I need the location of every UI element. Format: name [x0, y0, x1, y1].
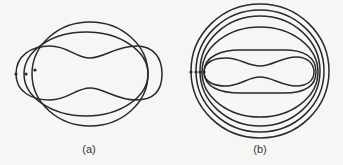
inner-ellipse-b — [202, 27, 318, 117]
wide-ellipse-a — [24, 32, 148, 116]
point-marker-a2 — [24, 72, 27, 75]
point-marker-a1 — [14, 72, 17, 75]
tall-ellipse-a — [32, 22, 148, 126]
point-marker-b2 — [194, 70, 197, 73]
caption-b: (b) — [245, 143, 275, 155]
outer-circle-b1 — [191, 4, 329, 138]
panel-a — [14, 22, 162, 126]
panel-b — [189, 4, 329, 138]
diagram-canvas — [0, 0, 343, 165]
peanut-curve-b — [204, 57, 314, 86]
outer-circle-b2 — [196, 10, 324, 132]
outer-circle-b3 — [200, 16, 320, 126]
caption-a: (a) — [74, 143, 104, 155]
figure-page: (a) (b) — [0, 0, 343, 165]
point-marker-b3 — [198, 70, 201, 73]
point-marker-b4 — [202, 70, 205, 73]
point-marker-b1 — [189, 70, 192, 73]
point-marker-a3 — [33, 68, 36, 71]
